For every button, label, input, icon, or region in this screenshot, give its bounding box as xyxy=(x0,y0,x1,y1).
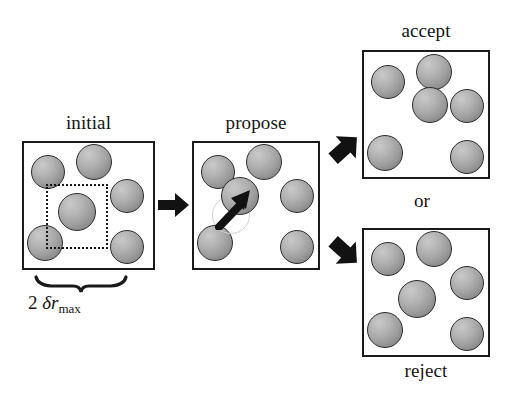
particle xyxy=(371,242,405,276)
arrow-initial-to-propose xyxy=(158,192,190,218)
arrow-propose-to-reject xyxy=(327,232,363,272)
particle xyxy=(110,179,144,213)
caption-initial: initial xyxy=(22,112,155,134)
particle xyxy=(450,266,484,300)
particle xyxy=(371,65,405,99)
particle-original xyxy=(398,280,436,318)
max-displacement-label: 2 δrmax xyxy=(28,292,81,317)
measure-symbol: δr xyxy=(42,292,58,313)
particle xyxy=(280,230,314,264)
particle xyxy=(280,179,314,213)
caption-propose: propose xyxy=(192,112,320,134)
measure-subscript: max xyxy=(58,301,80,316)
arrow-propose-to-accept xyxy=(327,128,363,168)
max-displacement-region xyxy=(46,184,108,249)
caption-accept: accept xyxy=(362,20,490,42)
figure-canvas: initial 2 δrmax propose xyxy=(0,0,517,395)
measure-prefix: 2 xyxy=(28,292,38,313)
or-label: or xyxy=(414,190,430,212)
particle xyxy=(450,317,484,351)
particle xyxy=(367,135,403,171)
particle xyxy=(110,230,144,264)
particle xyxy=(450,140,484,174)
particle xyxy=(76,144,112,180)
caption-reject: reject xyxy=(362,360,490,382)
displacement-arrow xyxy=(215,186,255,230)
particle xyxy=(416,231,452,267)
particle-moved xyxy=(412,87,448,123)
particle xyxy=(450,89,484,123)
particle xyxy=(246,144,282,180)
particle xyxy=(416,54,452,90)
particle xyxy=(367,312,403,348)
